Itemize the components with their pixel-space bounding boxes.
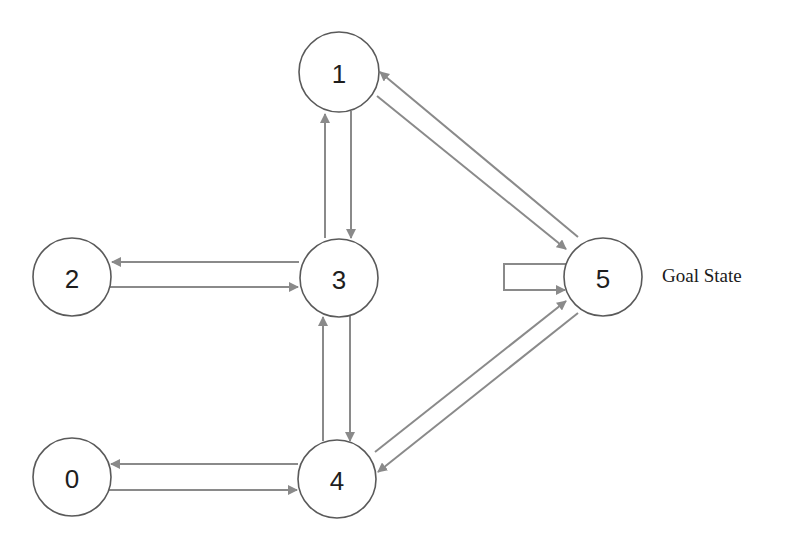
node-1: 1 [299,32,379,112]
node-2-label: 2 [65,264,79,294]
node-1-label: 1 [332,59,346,89]
node-0-label: 0 [65,464,79,494]
node-0: 0 [33,438,111,516]
edge-1-to-5 [377,96,566,249]
goal-state-label: Goal State [662,265,742,287]
node-3: 3 [300,239,378,317]
edge-4-to-5 [375,301,566,452]
edge-5-self-loop [504,264,566,290]
node-4: 4 [298,440,376,518]
node-3-label: 3 [332,265,346,295]
edge-5-to-4 [378,313,578,472]
node-5-label: 5 [596,264,610,294]
node-2: 2 [33,238,111,316]
node-5-goal: 5 [564,238,642,316]
node-4-label: 4 [330,466,344,496]
edge-5-to-1 [380,72,578,237]
